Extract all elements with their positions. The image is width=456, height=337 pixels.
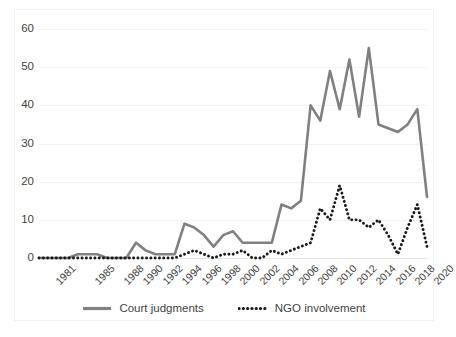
solid-line-key-icon: [82, 303, 112, 314]
y-tick-label-50: 50: [8, 61, 34, 72]
series-line-ngo-involvement: [39, 185, 427, 258]
legend-item-court-judgments: Court judgments: [82, 302, 203, 314]
x-tick-label-2016: 2016: [392, 262, 417, 287]
legend-item-ngo-involvement: NGO involvement: [238, 302, 366, 314]
x-tick-label-2010: 2010: [334, 262, 359, 287]
x-tick-label-1994: 1994: [179, 262, 204, 287]
x-tick-label-1990: 1990: [140, 262, 165, 287]
chart-legend: Court judgments NGO involvement: [14, 298, 434, 318]
plot-area: [39, 29, 427, 258]
x-axis: 1981198519881990199219941996199820002002…: [39, 258, 427, 298]
legend-label-ngo-involvement: NGO involvement: [275, 302, 366, 314]
x-tick-label-1985: 1985: [92, 262, 117, 287]
y-tick-label-10: 10: [8, 214, 34, 225]
x-tick-label-2020: 2020: [431, 262, 456, 287]
x-tick-label-1992: 1992: [160, 262, 185, 287]
x-tick-label-2014: 2014: [373, 262, 398, 287]
y-tick-label-20: 20: [8, 176, 34, 187]
y-tick-label-60: 60: [8, 23, 34, 34]
x-tick-label-2000: 2000: [237, 262, 262, 287]
dotted-line-key-icon: [238, 303, 268, 314]
y-tick-label-0: 0: [8, 252, 34, 263]
x-tick-label-2006: 2006: [295, 262, 320, 287]
y-axis: 0102030405060: [6, 29, 34, 258]
x-tick-label-1981: 1981: [53, 262, 78, 287]
x-tick-label-2002: 2002: [257, 262, 282, 287]
y-tick-label-40: 40: [8, 99, 34, 110]
x-tick-label-2004: 2004: [276, 262, 301, 287]
legend-label-court-judgments: Court judgments: [119, 302, 203, 314]
series-layer: [39, 29, 427, 258]
y-tick-label-30: 30: [8, 138, 34, 149]
x-tick-label-1996: 1996: [198, 262, 223, 287]
x-tick-label-2012: 2012: [354, 262, 379, 287]
